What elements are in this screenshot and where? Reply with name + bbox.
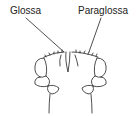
labium-drawing <box>0 0 137 116</box>
glossa-center <box>66 52 70 72</box>
leader-line-glossa <box>26 18 64 52</box>
glossa-right <box>75 55 78 66</box>
left-prementum-edge <box>49 94 50 113</box>
labial-edge <box>44 52 98 57</box>
leader-line-paraglossa <box>89 18 101 52</box>
glossa-left <box>60 55 61 66</box>
right-palp-segment-1 <box>97 58 106 77</box>
right-prementum-edge <box>91 94 92 113</box>
left-palp-segment-1 <box>35 58 44 77</box>
